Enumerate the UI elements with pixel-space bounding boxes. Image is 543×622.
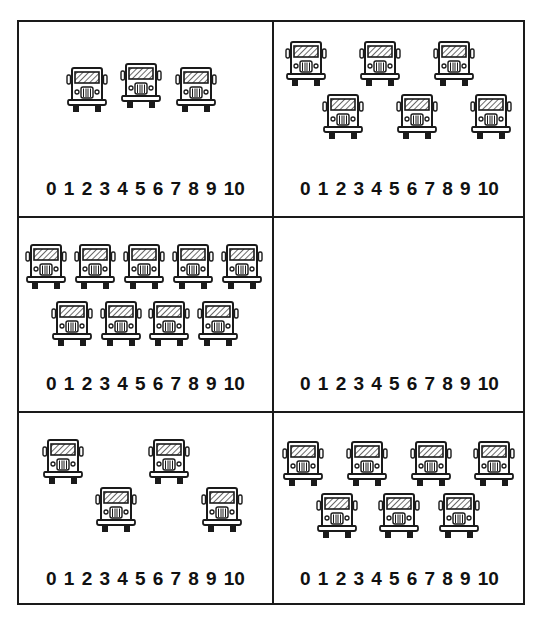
number-line: 012345678910: [274, 373, 525, 395]
number-choice-4[interactable]: 4: [114, 178, 132, 200]
truck-icon: [175, 66, 217, 114]
number-choice-0[interactable]: 0: [297, 178, 315, 200]
number-choice-1[interactable]: 1: [314, 373, 332, 395]
truck-icon: [438, 492, 480, 540]
number-choice-1[interactable]: 1: [60, 178, 78, 200]
number-choice-0[interactable]: 0: [297, 373, 315, 395]
number-choice-6[interactable]: 6: [149, 568, 167, 590]
number-choice-6[interactable]: 6: [149, 178, 167, 200]
number-choice-5[interactable]: 5: [131, 178, 149, 200]
truck-icon: [316, 492, 358, 540]
truck-icon: [221, 243, 263, 291]
truck-icon: [378, 492, 420, 540]
number-choice-8[interactable]: 8: [439, 178, 457, 200]
number-choice-3[interactable]: 3: [96, 373, 114, 395]
truck-icon: [201, 486, 243, 534]
number-choice-7[interactable]: 7: [167, 178, 185, 200]
number-choice-2[interactable]: 2: [332, 373, 350, 395]
truck-icon: [123, 243, 165, 291]
number-choice-2[interactable]: 2: [78, 373, 96, 395]
number-choice-9[interactable]: 9: [456, 568, 474, 590]
truck-icon: [74, 243, 116, 291]
truck-icon: [100, 300, 142, 348]
number-choice-5[interactable]: 5: [385, 568, 403, 590]
number-choice-5[interactable]: 5: [131, 373, 149, 395]
number-choice-0[interactable]: 0: [43, 178, 61, 200]
number-choice-9[interactable]: 9: [456, 178, 474, 200]
number-choice-9[interactable]: 9: [202, 568, 220, 590]
number-choice-8[interactable]: 8: [185, 568, 203, 590]
number-choice-7[interactable]: 7: [421, 373, 439, 395]
number-choice-6[interactable]: 6: [149, 373, 167, 395]
number-line: 012345678910: [274, 178, 525, 200]
number-choice-4[interactable]: 4: [368, 568, 386, 590]
number-choice-7[interactable]: 7: [167, 373, 185, 395]
truck-icon: [66, 66, 108, 114]
number-line: 012345678910: [19, 568, 272, 590]
number-choice-4[interactable]: 4: [114, 373, 132, 395]
number-choice-1[interactable]: 1: [60, 373, 78, 395]
number-choice-10[interactable]: 10: [474, 373, 502, 395]
number-choice-3[interactable]: 3: [350, 373, 368, 395]
truck-icon: [433, 40, 475, 88]
number-choice-8[interactable]: 8: [185, 178, 203, 200]
number-choice-8[interactable]: 8: [439, 568, 457, 590]
number-choice-10[interactable]: 10: [474, 178, 502, 200]
number-choice-4[interactable]: 4: [114, 568, 132, 590]
number-choice-10[interactable]: 10: [220, 568, 248, 590]
number-choice-8[interactable]: 8: [185, 373, 203, 395]
number-choice-0[interactable]: 0: [297, 568, 315, 590]
number-choice-3[interactable]: 3: [96, 178, 114, 200]
number-choice-7[interactable]: 7: [421, 178, 439, 200]
number-choice-3[interactable]: 3: [96, 568, 114, 590]
truck-icon: [42, 438, 84, 486]
truck-icon: [410, 440, 452, 488]
number-line: 012345678910: [19, 178, 272, 200]
number-choice-6[interactable]: 6: [403, 373, 421, 395]
truck-icon: [197, 300, 239, 348]
number-line: 012345678910: [274, 568, 525, 590]
number-choice-7[interactable]: 7: [421, 568, 439, 590]
number-choice-1[interactable]: 1: [314, 568, 332, 590]
number-choice-3[interactable]: 3: [350, 568, 368, 590]
number-choice-2[interactable]: 2: [332, 568, 350, 590]
number-choice-3[interactable]: 3: [350, 178, 368, 200]
truck-icon: [148, 438, 190, 486]
number-choice-5[interactable]: 5: [385, 373, 403, 395]
truck-icon: [120, 62, 162, 110]
number-choice-4[interactable]: 4: [368, 373, 386, 395]
truck-icon: [51, 300, 93, 348]
truck-icon: [359, 40, 401, 88]
number-choice-6[interactable]: 6: [403, 568, 421, 590]
truck-icon: [470, 93, 512, 141]
truck-icon: [148, 300, 190, 348]
number-line: 012345678910: [19, 373, 272, 395]
number-choice-9[interactable]: 9: [202, 178, 220, 200]
number-choice-5[interactable]: 5: [385, 178, 403, 200]
number-choice-2[interactable]: 2: [78, 178, 96, 200]
truck-icon: [346, 440, 388, 488]
truck-icon: [95, 486, 137, 534]
number-choice-7[interactable]: 7: [167, 568, 185, 590]
number-choice-6[interactable]: 6: [403, 178, 421, 200]
number-choice-0[interactable]: 0: [43, 373, 61, 395]
horizontal-divider-2: [19, 411, 523, 413]
number-choice-2[interactable]: 2: [332, 178, 350, 200]
truck-icon: [172, 243, 214, 291]
number-choice-1[interactable]: 1: [60, 568, 78, 590]
number-choice-0[interactable]: 0: [43, 568, 61, 590]
truck-icon: [25, 243, 67, 291]
number-choice-4[interactable]: 4: [368, 178, 386, 200]
number-choice-1[interactable]: 1: [314, 178, 332, 200]
number-choice-5[interactable]: 5: [131, 568, 149, 590]
truck-icon: [285, 40, 327, 88]
vertical-divider: [272, 22, 274, 603]
number-choice-2[interactable]: 2: [78, 568, 96, 590]
number-choice-9[interactable]: 9: [456, 373, 474, 395]
number-choice-10[interactable]: 10: [220, 178, 248, 200]
number-choice-8[interactable]: 8: [439, 373, 457, 395]
horizontal-divider-1: [19, 216, 523, 218]
number-choice-10[interactable]: 10: [474, 568, 502, 590]
number-choice-10[interactable]: 10: [220, 373, 248, 395]
number-choice-9[interactable]: 9: [202, 373, 220, 395]
